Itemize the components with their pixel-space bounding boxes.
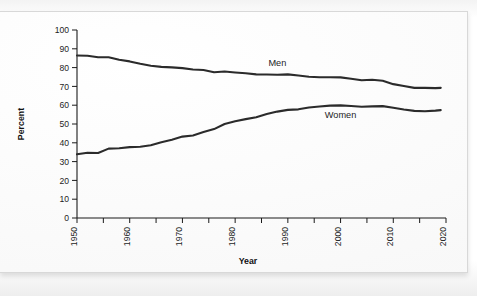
y-tick-label: 50 [59, 119, 69, 129]
y-tick-label: 100 [55, 25, 70, 35]
y-tick-label: 20 [59, 176, 69, 186]
y-axis-tick-labels: 0102030405060708090100 [55, 25, 70, 223]
line-chart: 0102030405060708090100 19501960197019801… [0, 12, 468, 274]
x-axis-title: Year [239, 256, 258, 266]
y-tick-label: 90 [59, 44, 69, 54]
x-tick-label: 1960 [122, 227, 132, 246]
y-axis-ticks [72, 30, 77, 218]
y-tick-label: 30 [59, 157, 69, 167]
series-lines [77, 56, 441, 155]
series-line-men [77, 56, 441, 89]
y-tick-label: 40 [59, 138, 69, 148]
chart-card: 0102030405060708090100 19501960197019801… [0, 11, 468, 273]
x-tick-label: 1980 [227, 227, 237, 246]
x-axis-ticks [77, 218, 446, 223]
x-tick-label: 2020 [438, 227, 448, 246]
chart-page: 0102030405060708090100 19501960197019801… [0, 0, 477, 296]
x-tick-label: 2000 [333, 227, 343, 246]
x-axis-tick-labels: 19501960197019801990200020102020 [69, 227, 448, 246]
y-tick-label: 60 [59, 100, 69, 110]
y-tick-label: 70 [59, 82, 69, 92]
x-tick-label: 2010 [385, 227, 395, 246]
y-tick-label: 0 [64, 213, 69, 223]
y-tick-label: 10 [59, 194, 69, 204]
y-tick-label: 80 [59, 63, 69, 73]
series-line-women [77, 105, 441, 154]
x-tick-label: 1990 [280, 227, 290, 246]
series-label-men: Men [268, 58, 286, 68]
series-label-women: Women [325, 110, 357, 120]
y-axis-title: Percent [16, 108, 26, 140]
x-tick-label: 1950 [69, 227, 79, 246]
x-tick-label: 1970 [174, 227, 184, 246]
